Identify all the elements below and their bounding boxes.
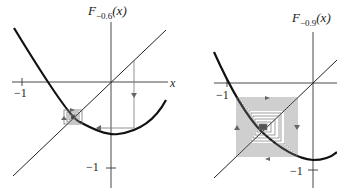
x-tick-label: −1: [14, 86, 27, 101]
y-tick-label: −1: [290, 164, 303, 179]
graph-title: F−0.9(x): [292, 10, 331, 28]
graph-title: F−0.6(x): [88, 3, 127, 21]
graph-f-minus-0-9: [170, 0, 337, 192]
parabola-curve: [14, 28, 166, 134]
y-tick-label: −1: [86, 160, 99, 175]
panel-f-minus-0-9: F−0.9(x) −1 −1: [170, 0, 337, 192]
panel-f-minus-0-6: F−0.6(x) −1 −1 x: [0, 0, 170, 192]
diagonal-line: [13, 30, 166, 176]
x-tick-label: −1: [216, 88, 229, 103]
